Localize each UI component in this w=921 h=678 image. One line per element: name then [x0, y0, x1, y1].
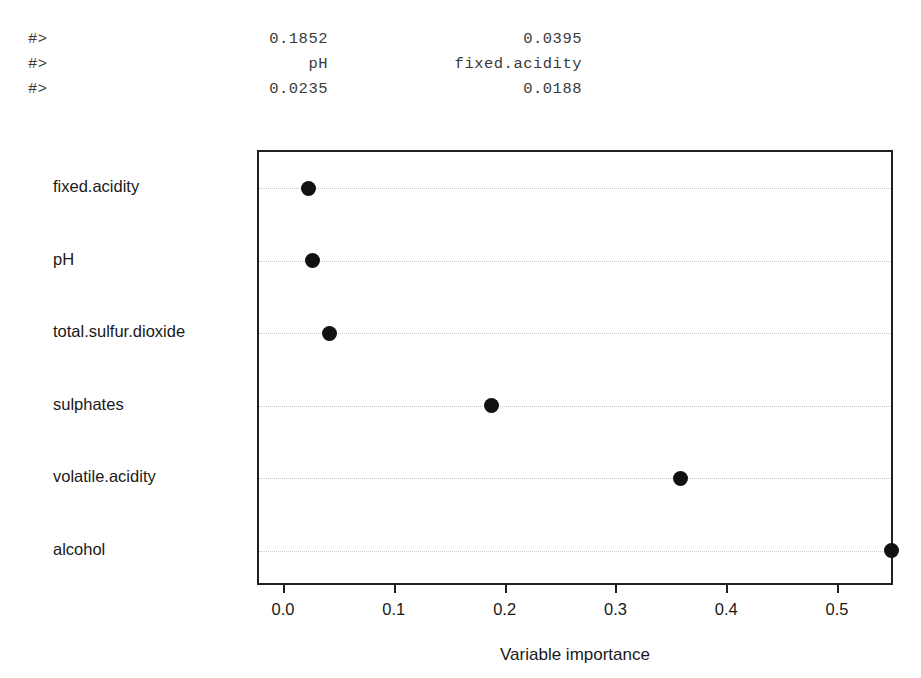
x-tick-label: 0.5: [807, 600, 867, 619]
y-axis-label: pH: [53, 249, 74, 269]
y-axis-label: total.sulfur.dioxide: [53, 321, 185, 341]
grid-line: [259, 478, 891, 479]
x-axis-title-text: Variable importance: [500, 645, 650, 665]
grid-line: [259, 551, 891, 552]
data-point: [884, 543, 899, 558]
x-tick-label: 0.4: [696, 600, 756, 619]
y-axis-label: sulphates: [53, 394, 124, 414]
x-tick-label: 0.2: [475, 600, 535, 619]
grid-line: [259, 188, 891, 189]
data-point: [484, 398, 499, 413]
x-tick-label: 0.1: [364, 600, 424, 619]
grid-line: [259, 261, 891, 262]
data-point: [305, 253, 320, 268]
x-tick-mark: [394, 585, 396, 593]
plot-panel: [257, 150, 893, 585]
data-point: [673, 471, 688, 486]
y-axis-label: volatile.acidity: [53, 466, 156, 486]
x-tick-mark: [837, 585, 839, 593]
x-tick-mark: [505, 585, 507, 593]
x-tick-mark: [726, 585, 728, 593]
x-axis-title: Variable importance: [0, 645, 921, 665]
y-axis-label: fixed.acidity: [53, 176, 139, 196]
x-tick-label: 0.3: [585, 600, 645, 619]
variable-importance-plot: fixed.aciditypHtotal.sulfur.dioxidesulph…: [0, 0, 921, 678]
x-tick-mark: [283, 585, 285, 593]
grid-line: [259, 333, 891, 334]
y-axis-label: alcohol: [53, 539, 105, 559]
x-tick-label: 0.0: [253, 600, 313, 619]
grid-line: [259, 406, 891, 407]
data-point: [322, 326, 337, 341]
data-point: [301, 181, 316, 196]
x-tick-mark: [615, 585, 617, 593]
